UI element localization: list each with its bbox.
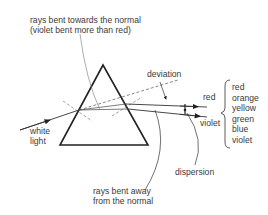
spectrum-list: red orange yellow green blue violet bbox=[232, 82, 259, 146]
label-violet-ray: violet bbox=[200, 118, 220, 128]
label-dispersion: dispersion bbox=[175, 167, 214, 177]
normal-entry bbox=[63, 101, 92, 121]
spectrum-yellow: yellow bbox=[232, 103, 259, 114]
leader-towards-normal bbox=[80, 34, 100, 110]
spectrum-green: green bbox=[232, 114, 259, 125]
label-deviation: deviation bbox=[147, 69, 181, 79]
label-away-normal: rays bent away from the normal bbox=[93, 186, 153, 206]
prism bbox=[60, 65, 148, 145]
normal-exit bbox=[112, 97, 142, 116]
spectrum-brace bbox=[221, 80, 230, 148]
leader-dispersion bbox=[187, 113, 199, 165]
leader-away-normal bbox=[145, 110, 161, 190]
spectrum-violet: violet bbox=[232, 135, 259, 146]
label-red-ray: red bbox=[203, 92, 215, 102]
spectrum-blue: blue bbox=[232, 124, 259, 135]
label-white-light: white light bbox=[30, 126, 50, 146]
label-towards-normal: rays bent towards the normal (violet ben… bbox=[30, 15, 141, 35]
spectrum-orange: orange bbox=[232, 93, 259, 104]
spectrum-red: red bbox=[232, 82, 259, 93]
